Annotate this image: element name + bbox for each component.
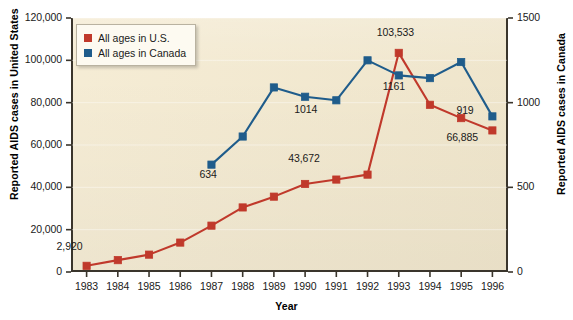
y-axis-left-tick-100000: 100,000	[0, 53, 62, 65]
legend-label-canada: All ages in Canada	[98, 47, 186, 59]
y-axis-right-tick-0: 0	[517, 265, 523, 277]
data-label-103533: 103,533	[377, 26, 414, 38]
data-label-66885: 66,885	[446, 131, 478, 143]
legend-swatch-us	[84, 34, 92, 42]
y-axis-right-tick-1500: 1500	[517, 11, 540, 23]
y-axis-left-tick-0: 0	[0, 265, 62, 277]
legend-label-us: All ages in U.S.	[98, 32, 170, 44]
aids-cases-line-chart: Reported AIDS cases in United States Rep…	[0, 0, 573, 320]
legend-item-canada[interactable]: All ages in Canada	[84, 45, 186, 60]
y-axis-right-tick-500: 500	[517, 180, 534, 192]
x-axis-tick-1996: 1996	[470, 280, 514, 292]
data-label-634: 634	[199, 168, 216, 180]
y-axis-right-tick-1000: 1000	[517, 96, 540, 108]
y-axis-left-title: Reported AIDS cases in United States	[8, 20, 20, 200]
y-axis-right-title: Reported AIDS cases in Canada	[555, 24, 567, 204]
y-axis-left-tick-120000: 120,000	[0, 11, 62, 23]
x-axis-title: Year	[0, 300, 573, 312]
y-axis-left-tick-80000: 80,000	[0, 96, 62, 108]
data-label-2920: 2,920	[57, 240, 83, 252]
y-axis-left-tick-40000: 40,000	[0, 180, 62, 192]
data-label-43672: 43,672	[288, 152, 320, 164]
y-axis-left-tick-20000: 20,000	[0, 223, 62, 235]
y-axis-left-tick-60000: 60,000	[0, 138, 62, 150]
legend-swatch-canada	[84, 49, 92, 57]
legend-item-us[interactable]: All ages in U.S.	[84, 30, 186, 45]
data-label-1014: 1014	[294, 103, 317, 115]
data-label-919: 919	[456, 104, 473, 116]
legend: All ages in U.S. All ages in Canada	[76, 24, 196, 66]
data-label-1161: 1161	[383, 80, 405, 92]
